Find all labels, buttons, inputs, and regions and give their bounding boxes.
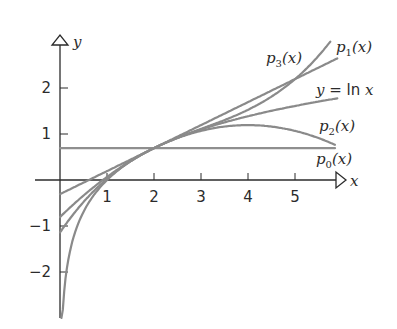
x-tick-label: 3 xyxy=(196,188,206,206)
taylor-polynomial-chart: 12345−2−112 x y p3(x) p1(x) y = ln x p2(… xyxy=(0,0,397,329)
x-axis-arrow-icon xyxy=(336,172,346,188)
x-tick-label: 1 xyxy=(102,188,112,206)
y-axis-arrow-icon xyxy=(52,35,68,45)
label-p1: p1(x) xyxy=(336,38,372,58)
y-axis-label: y xyxy=(72,33,82,51)
y-tick-label: −1 xyxy=(29,217,51,235)
label-p0: p0(x) xyxy=(316,150,352,170)
x-axis-label: x xyxy=(350,172,359,190)
x-tick-label: 4 xyxy=(243,188,253,206)
y-tick-label: 1 xyxy=(41,125,51,143)
x-tick-label: 5 xyxy=(290,188,300,206)
x-tick-label: 2 xyxy=(149,188,159,206)
label-p2: p2(x) xyxy=(319,117,355,137)
label-lnx: y = ln x xyxy=(315,81,374,99)
y-tick-label: −2 xyxy=(29,263,51,281)
y-tick-label: 2 xyxy=(41,79,51,97)
label-p3: p3(x) xyxy=(266,49,302,69)
